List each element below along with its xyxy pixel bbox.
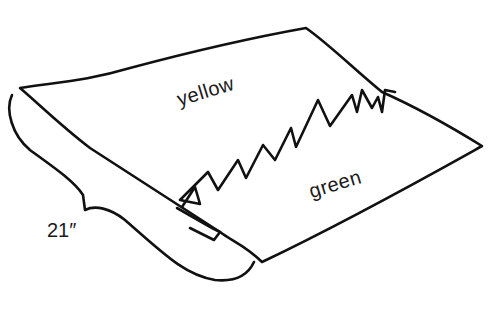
fabric-drawing xyxy=(0,0,497,311)
dimension-label: 21″ xyxy=(47,219,76,242)
fabric-outline xyxy=(20,28,482,262)
zigzag-seam xyxy=(180,90,395,207)
folded-tab xyxy=(177,208,220,240)
fabric-diagram: yellow green 21″ xyxy=(0,0,497,311)
